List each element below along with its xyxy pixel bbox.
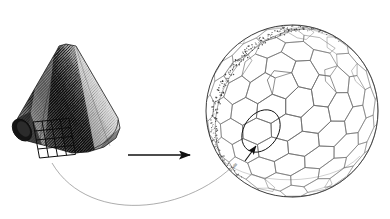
tessellated-sphere — [205, 24, 379, 197]
shaded-cone-frustum — [0, 0, 223, 219]
figure-canvas: cells — [0, 0, 390, 219]
figure-illustration — [0, 0, 390, 219]
patch-correspondence-curve — [52, 150, 247, 205]
